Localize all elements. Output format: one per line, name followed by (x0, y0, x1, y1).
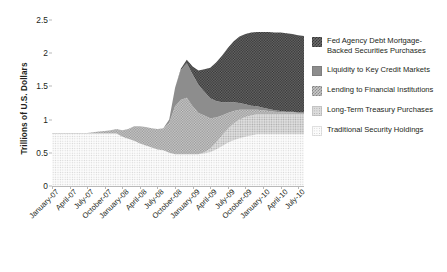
y-tick-label: 0.5 (36, 149, 48, 157)
y-tick-mark (49, 53, 52, 54)
y-tick-mark (49, 152, 52, 153)
legend-swatch-icon (312, 37, 322, 47)
legend-label: Fed Agency Debt Mortgage-Backed Securiti… (327, 36, 444, 56)
legend-swatch-icon (312, 66, 322, 76)
legend-label: Liquidity to Key Credit Markets (327, 65, 430, 75)
legend-swatch-icon (312, 106, 322, 116)
legend-swatch-icon (312, 86, 322, 96)
y-tick-label: 1.5 (36, 82, 48, 90)
legend-item[interactable]: Long-Term Treasury Purchases (312, 105, 444, 116)
legend-label: Traditional Security Holdings (327, 125, 423, 135)
y-tick-mark (49, 86, 52, 87)
legend-swatch-icon (312, 126, 322, 136)
plot-area: 00.511.522.5 (52, 20, 304, 186)
legend-label: Lending to Financial Institutions (327, 85, 433, 95)
x-tick-labels: January-07April-07July-07October-07Janua… (52, 188, 304, 272)
legend-item[interactable]: Liquidity to Key Credit Markets (312, 65, 444, 76)
legend-item[interactable]: Lending to Financial Institutions (312, 85, 444, 96)
y-tick-label: 1 (43, 115, 48, 123)
y-tick-mark (49, 20, 52, 21)
y-tick-label: 2 (43, 49, 48, 57)
chart-legend: Fed Agency Debt Mortgage-Backed Securiti… (312, 36, 444, 145)
chart-container: Trillions of U.S. Dollars 00.511.522.5 J… (0, 0, 447, 272)
stacked-area-series (52, 20, 304, 186)
y-tick-label: 2.5 (36, 16, 48, 24)
legend-label: Long-Term Treasury Purchases (327, 105, 433, 115)
y-tick-label: 0 (43, 182, 48, 190)
y-tick-mark (49, 119, 52, 120)
legend-item[interactable]: Traditional Security Holdings (312, 125, 444, 136)
legend-item[interactable]: Fed Agency Debt Mortgage-Backed Securiti… (312, 36, 444, 56)
y-axis-title: Trillions of U.S. Dollars (20, 39, 29, 179)
